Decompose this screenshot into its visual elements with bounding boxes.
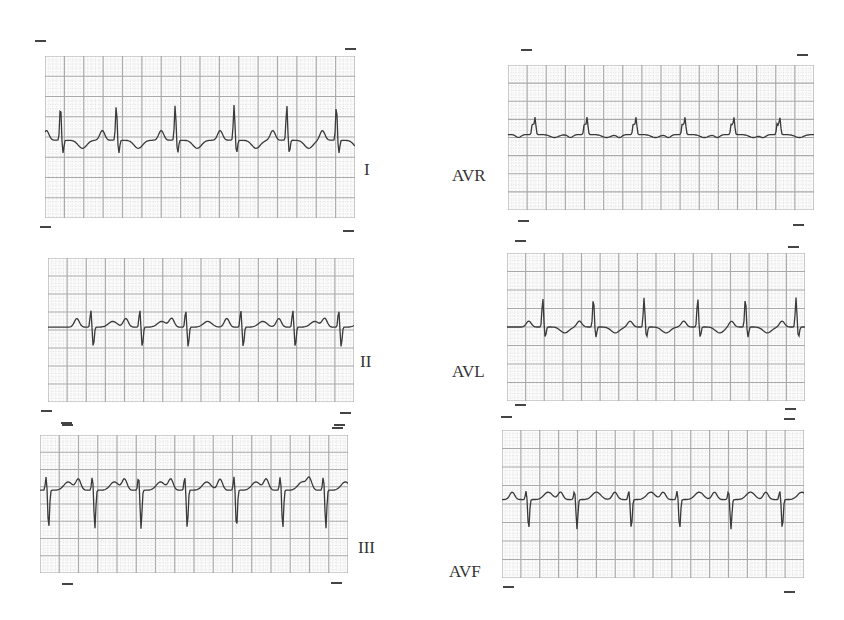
calibration-tick-mark [515,240,526,242]
calibration-tick-mark [785,408,796,410]
ecg-strip-avr [508,65,814,210]
calibration-tick-mark [521,49,532,51]
calibration-tick-mark [332,427,343,429]
lead-label-i: I [364,160,370,180]
calibration-tick-mark [334,424,345,426]
calibration-tick-mark [793,224,804,226]
calibration-tick-mark [797,54,808,56]
calibration-tick-mark [331,582,342,584]
calibration-tick-mark [784,591,795,593]
ecg-strip-avl [507,253,805,401]
calibration-tick-mark [35,40,46,42]
lead-label-avf: AVF [449,562,481,582]
lead-label-avl: AVL [452,362,485,382]
ecg-strip-avf [502,430,804,578]
calibration-tick-mark [518,220,529,222]
calibration-tick-mark [41,410,52,412]
calibration-tick-mark [340,412,351,414]
calibration-tick-mark [343,230,354,232]
calibration-tick-mark [788,246,799,248]
calibration-tick-mark [515,404,526,406]
ecg-strip-ii [48,258,354,402]
calibration-tick-mark [784,418,795,420]
calibration-tick-mark [62,583,73,585]
lead-label-iii: III [358,538,375,558]
calibration-tick-mark [62,424,73,426]
ecg-strip-i [45,56,355,218]
ecg-strip-iii [40,435,348,573]
lead-label-ii: II [360,352,371,372]
calibration-tick-mark [501,416,512,418]
calibration-tick-mark [345,48,356,50]
lead-label-avr: AVR [452,166,486,186]
calibration-tick-mark [503,586,514,588]
calibration-tick-mark [40,226,51,228]
